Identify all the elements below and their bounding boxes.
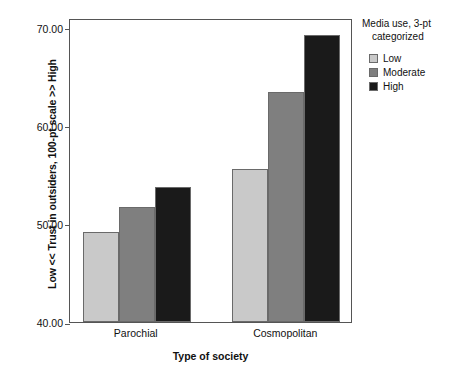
- y-axis-tick-mark: [65, 225, 70, 226]
- legend-title-line2: categorized: [362, 31, 448, 44]
- legend-swatch-icon: [369, 82, 378, 91]
- y-axis-tick-mark: [65, 29, 70, 30]
- legend-swatch-icon: [369, 54, 378, 63]
- legend-item: Moderate: [362, 67, 448, 78]
- y-axis-tick-mark: [65, 127, 70, 128]
- bar: [304, 35, 340, 322]
- legend-items: LowModerateHigh: [362, 53, 448, 92]
- legend-title: Media use, 3-pt categorized: [362, 18, 448, 43]
- legend-item: High: [362, 81, 448, 92]
- x-axis-tick-label: Parochial: [76, 327, 196, 339]
- legend-item: Low: [362, 53, 448, 64]
- bar: [119, 207, 155, 322]
- plot-area: 40.0050.0060.0070.00: [69, 19, 352, 323]
- plot-inner: 40.0050.0060.0070.00: [70, 20, 351, 322]
- bar: [268, 92, 304, 322]
- legend-swatch-icon: [369, 68, 378, 77]
- legend-title-line1: Media use, 3-pt: [362, 18, 431, 29]
- legend-item-label: Moderate: [383, 67, 425, 78]
- y-axis-tick-label: 50.00: [37, 219, 63, 231]
- y-axis-tick-label: 60.00: [37, 121, 63, 133]
- x-axis-title: Type of society: [69, 350, 352, 362]
- chart-figure: Low << Trust in outsiders, 100-pt scale …: [0, 0, 449, 373]
- y-axis-title: Low << Trust in outsiders, 100-pt scale …: [46, 24, 58, 324]
- legend: Media use, 3-pt categorized LowModerateH…: [362, 18, 448, 95]
- y-axis-tick-label: 40.00: [37, 317, 63, 329]
- y-axis-tick-mark: [65, 324, 70, 325]
- y-axis-tick-label: 70.00: [37, 23, 63, 35]
- legend-item-label: High: [383, 81, 404, 92]
- bar: [155, 187, 191, 322]
- bar: [83, 232, 119, 322]
- x-axis-tick-label: Cosmopolitan: [225, 327, 345, 339]
- legend-item-label: Low: [383, 53, 401, 64]
- bar: [232, 169, 268, 322]
